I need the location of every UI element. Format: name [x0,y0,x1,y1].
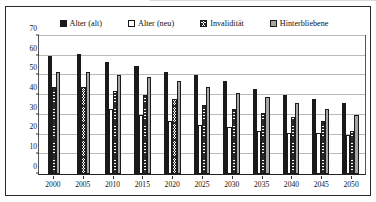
x-tick-mark [262,176,263,179]
x-tick-mark [321,176,322,179]
x-tick-label: 2045 [314,181,329,189]
bar [56,72,60,175]
plot-wrapper: 010203040506070 200020052010201520202025… [16,33,372,195]
y-tick-label: 30 [29,104,37,112]
bar [354,115,358,174]
bar [206,87,210,174]
x-tick-mark [172,176,173,179]
bar-group-2000 [39,36,69,174]
legend-item-label: Hinterbliebene [280,20,329,28]
legend-item-2: Invalidität [200,20,244,28]
bar-group-2005 [69,36,99,174]
x-tick-label: 2015 [135,181,150,189]
x-tick-mark [202,176,203,179]
legend-item-label: Alter (neu) [138,20,174,28]
plot-area: 010203040506070 [38,35,366,175]
x-tick-mark [291,176,292,179]
x-tick-label: 2035 [254,181,269,189]
bar-group-2010 [98,36,128,174]
bar-group-2045 [306,36,336,174]
x-tick-mark [351,176,352,179]
bar [295,103,299,174]
x-tick-mark [232,176,233,179]
x-tick-mark [53,176,54,179]
x-tick-label: 2020 [165,181,180,189]
x-tick-mark [113,176,114,179]
y-tick-label: 40 [29,84,37,92]
y-tick-label: 10 [29,143,37,151]
bar [117,75,121,174]
bar-group-2020 [158,36,188,174]
bar-group-2050 [335,36,365,174]
x-tick-label: 2040 [284,181,299,189]
legend-item-1: Alter (neu) [128,20,174,28]
legend-swatch-solid-black [60,20,67,27]
bar-groups [39,36,365,174]
bar [147,77,151,174]
y-tick-label: 20 [29,124,37,132]
scan-edge-artifact [150,0,376,1]
bar [236,93,240,174]
bar [86,72,90,175]
legend-item-label: Invalidität [210,20,244,28]
bar-group-2040 [276,36,306,174]
bar [177,81,181,174]
chart-figure: Alter (alt)Alter (neu)InvaliditätHinterb… [0,0,376,202]
y-tick-label: 60 [29,45,37,53]
bar [265,97,269,174]
legend-swatch-crosshatch [200,20,207,27]
chart-frame: Alter (alt)Alter (neu)InvaliditätHinterb… [5,6,371,196]
chart-legend: Alter (alt)Alter (neu)InvaliditätHinterb… [16,16,372,32]
bar-group-2035 [246,36,276,174]
legend-item-label: Alter (alt) [70,20,103,28]
legend-swatch-gray [270,20,277,27]
x-tick-label: 2030 [224,181,239,189]
x-tick-label: 2005 [75,181,90,189]
legend-swatch-white [128,20,135,27]
y-tick-label: 50 [29,65,37,73]
bar-group-2015 [128,36,158,174]
y-tick-label: 70 [29,25,37,33]
x-tick-mark [142,176,143,179]
x-tick-mark [83,176,84,179]
x-axis: 2000200520102015202020252030203520402045… [38,176,366,194]
x-tick-label: 2050 [343,181,358,189]
x-tick-label: 2000 [45,181,60,189]
x-tick-label: 2025 [194,181,209,189]
x-tick-label: 2010 [105,181,120,189]
bar-group-2025 [187,36,217,174]
bar [325,109,329,174]
y-tick-label: 0 [33,163,37,171]
legend-item-3: Hinterbliebene [270,20,329,28]
legend-item-0: Alter (alt) [60,20,103,28]
bar-group-2030 [217,36,247,174]
